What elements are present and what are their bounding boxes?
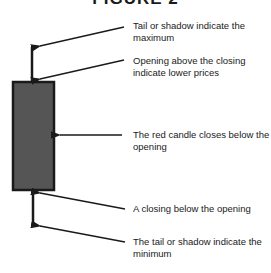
label-minimum: The tail or shadow indicate the minimum: [133, 236, 271, 260]
arrow-opening: [40, 60, 124, 79]
label-closing: A closing below the opening: [133, 203, 271, 215]
arrow-maximum: [40, 27, 124, 46]
label-opening: Opening above the closing indicate lower…: [133, 55, 271, 79]
label-body: The red candle closes below the opening: [133, 129, 271, 153]
arrow-closing: [40, 193, 125, 209]
arrow-minimum: [40, 226, 125, 242]
label-maximum: Tail or shadow indicate the maximum: [133, 20, 271, 44]
candle-body: [13, 82, 54, 190]
